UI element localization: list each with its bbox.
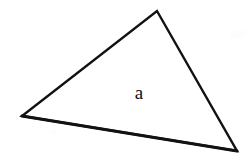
triangle-shape xyxy=(22,11,237,151)
triangle-label-a: a xyxy=(135,82,144,103)
figure-canvas: a xyxy=(0,0,251,165)
triangle-figure-svg: a xyxy=(0,0,251,165)
